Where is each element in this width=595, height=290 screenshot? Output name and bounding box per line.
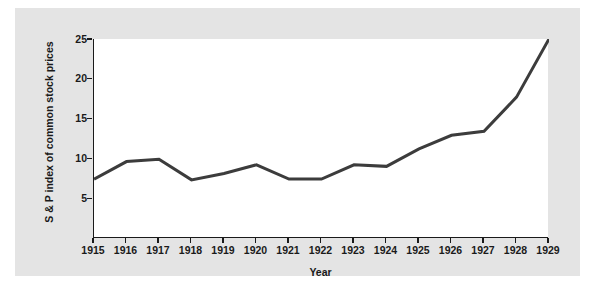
x-tick-mark [385,238,386,243]
y-tick-mark [87,78,92,79]
x-tick-mark [157,238,158,243]
x-tick-label: 1929 [528,245,568,256]
y-tick-mark [87,158,92,159]
x-tick-mark [125,238,126,243]
x-axis-ticks: 1915191619171918191919201921192219231924… [93,238,548,264]
line-chart-svg [94,39,549,238]
y-axis-ticks: 510152025 [57,39,87,238]
x-tick-mark [482,238,483,243]
x-tick-mark [320,238,321,243]
data-series-line [94,39,549,180]
y-tick-mark [87,118,92,119]
figure-root: S & P index of common stock prices 51015… [0,0,595,290]
x-tick-mark [255,238,256,243]
y-tick-label: 20 [61,73,87,84]
y-tick-label: 15 [61,113,87,124]
x-tick-mark [92,238,93,243]
y-tick-label: 25 [61,34,87,45]
figure-panel: S & P index of common stock prices 51015… [15,8,580,276]
y-axis-title: S & P index of common stock prices [43,32,55,232]
plot-area [93,39,548,238]
y-tick-label: 5 [61,193,87,204]
x-tick-mark [287,238,288,243]
x-tick-mark [515,238,516,243]
x-tick-mark [450,238,451,243]
x-tick-mark [190,238,191,243]
y-tick-label: 10 [61,153,87,164]
y-tick-mark [87,198,92,199]
x-tick-mark [352,238,353,243]
x-tick-mark [222,238,223,243]
x-tick-mark [417,238,418,243]
y-tick-mark [87,38,92,39]
x-axis-title: Year [93,266,548,278]
x-tick-mark [547,238,548,243]
